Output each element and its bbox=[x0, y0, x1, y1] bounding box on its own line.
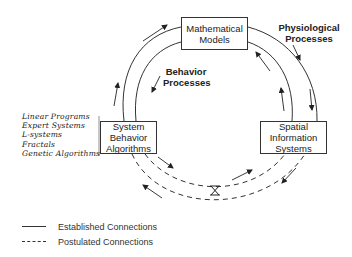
arrow-behavior-down bbox=[152, 76, 160, 92]
node-label-line: Information bbox=[270, 132, 318, 143]
algorithm-item: Expert Systems bbox=[22, 121, 100, 130]
algorithm-item: Fractals bbox=[22, 140, 100, 149]
solid-line-icon bbox=[22, 226, 46, 227]
node-label-line: Models bbox=[199, 34, 230, 45]
node-label-line: Algorithms bbox=[106, 143, 151, 154]
node-label-line: Mathematical bbox=[186, 23, 243, 34]
arrow-right-down bbox=[310, 89, 312, 110]
node-label-line: System bbox=[113, 121, 145, 132]
legend-postulated-label: Postulated Connections bbox=[58, 237, 153, 247]
behavior-processes-label: Behavior Processes bbox=[163, 67, 209, 88]
arrow-inner-up bbox=[281, 88, 284, 111]
label-line: Processes bbox=[163, 78, 209, 89]
arrow-dash-down-right bbox=[158, 157, 173, 168]
legend-established-label: Established Connections bbox=[58, 222, 157, 232]
arrow-up-left bbox=[114, 83, 118, 106]
arrow-dash-down-left bbox=[282, 168, 296, 183]
edge-postulated-outer bbox=[132, 154, 305, 200]
node-spatial-information-systems: Spatial Information Systems bbox=[260, 121, 327, 154]
label-line: Processes bbox=[278, 34, 340, 45]
algorithm-item: Linear Programs bbox=[22, 112, 100, 121]
arrow-dash-up-right bbox=[232, 170, 252, 180]
node-label-line: Systems bbox=[275, 143, 311, 154]
algorithm-item: L-systems bbox=[22, 130, 100, 139]
legend: Established Connections Postulated Conne… bbox=[22, 219, 157, 249]
node-label-line: Behavior bbox=[110, 132, 148, 143]
edge-sis-to-mm-inner bbox=[248, 42, 292, 121]
dashed-line-icon bbox=[22, 241, 46, 242]
node-system-behavior-algorithms: System Behavior Algorithms bbox=[100, 121, 157, 154]
algorithm-item: Genetic Algorithms bbox=[22, 149, 100, 158]
arrow-dash-up-left bbox=[143, 185, 162, 198]
physiological-processes-label: Physiological Processes bbox=[278, 23, 340, 44]
algorithm-list: Linear Programs Expert Systems L-systems… bbox=[22, 112, 100, 158]
node-label-line: Spatial bbox=[279, 121, 308, 132]
label-line: Behavior bbox=[163, 67, 209, 78]
arrow-inner-up-top bbox=[256, 52, 270, 71]
hourglass-valve-icon bbox=[210, 186, 220, 195]
edge-postulated-inner bbox=[145, 154, 285, 187]
legend-postulated: Postulated Connections bbox=[22, 234, 157, 249]
node-mathematical-models: Mathematical Models bbox=[181, 17, 248, 50]
label-line: Physiological bbox=[278, 23, 340, 34]
legend-established: Established Connections bbox=[22, 219, 157, 234]
